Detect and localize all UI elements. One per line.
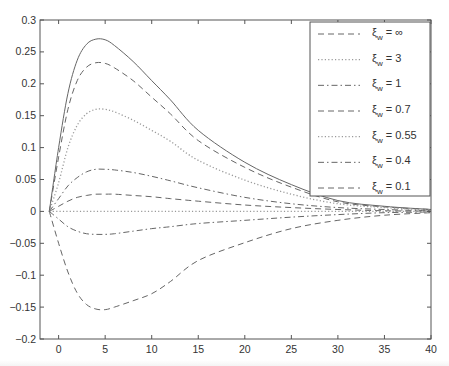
x-tick-label: 20 xyxy=(239,343,251,355)
cropped-caption-band xyxy=(0,360,449,366)
x-tick-label: 40 xyxy=(425,343,437,355)
x-tick-label: 0 xyxy=(56,343,62,355)
legend-box xyxy=(310,22,430,196)
x-axis-tick-labels: 0510152025303540 xyxy=(56,343,437,355)
y-tick-label: −0.1 xyxy=(15,269,36,281)
x-tick-label: 25 xyxy=(286,343,298,355)
x-tick-label: 30 xyxy=(332,343,344,355)
y-tick-label: 0.05 xyxy=(16,173,37,185)
y-tick-label: 0.3 xyxy=(21,14,36,26)
x-tick-label: 35 xyxy=(379,343,391,355)
y-tick-label: 0 xyxy=(30,205,36,217)
y-tick-label: −0.05 xyxy=(9,237,36,249)
line-chart: 0510152025303540 −0.2−0.15−0.1−0.0500.05… xyxy=(0,0,449,366)
y-tick-label: 0.15 xyxy=(16,109,37,121)
y-tick-label: −0.2 xyxy=(15,333,36,345)
y-tick-label: 0.1 xyxy=(21,141,36,153)
y-tick-label: 0.25 xyxy=(16,45,37,57)
x-tick-label: 5 xyxy=(102,343,108,355)
legend: ξw = ∞ξw = 3ξw = 1ξw = 0.7ξw = 0.55ξw = … xyxy=(310,22,430,196)
x-tick-label: 10 xyxy=(146,343,158,355)
y-tick-label: −0.15 xyxy=(9,301,36,313)
y-axis-tick-labels: −0.2−0.15−0.1−0.0500.050.10.150.20.250.3 xyxy=(9,14,36,345)
x-tick-label: 15 xyxy=(192,343,204,355)
y-tick-label: 0.2 xyxy=(21,77,36,89)
